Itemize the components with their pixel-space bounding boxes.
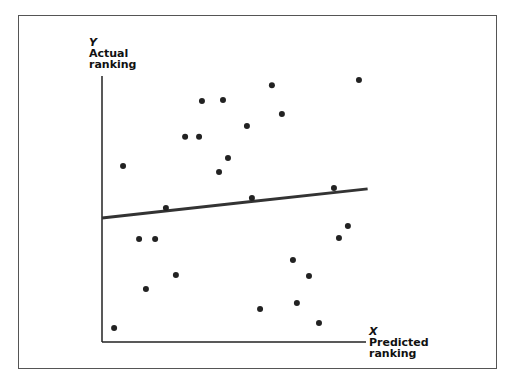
- y-label-line2: ranking: [89, 59, 136, 70]
- data-point: [225, 155, 231, 161]
- data-point: [257, 306, 263, 312]
- data-point: [294, 300, 300, 306]
- trend-line: [102, 189, 368, 218]
- data-point: [143, 286, 149, 292]
- data-point: [163, 205, 169, 211]
- data-point: [316, 320, 322, 326]
- data-point: [111, 325, 117, 331]
- data-point: [356, 77, 362, 83]
- data-point: [279, 111, 285, 117]
- data-point: [249, 195, 255, 201]
- x-axis-label: X Predicted ranking: [369, 326, 429, 359]
- data-point: [182, 134, 188, 140]
- data-point: [199, 98, 205, 104]
- data-point: [331, 185, 337, 191]
- data-point: [120, 163, 126, 169]
- data-point: [290, 257, 296, 263]
- data-point: [336, 235, 342, 241]
- scatter-plot: [0, 0, 513, 384]
- data-point: [269, 82, 275, 88]
- data-point: [244, 123, 250, 129]
- data-point: [306, 273, 312, 279]
- data-point: [196, 134, 202, 140]
- data-point: [345, 223, 351, 229]
- data-point: [152, 236, 158, 242]
- y-axis-label: Y Actual ranking: [89, 37, 136, 70]
- data-point: [216, 169, 222, 175]
- x-label-line2: ranking: [369, 348, 429, 359]
- data-point: [136, 236, 142, 242]
- data-point: [220, 97, 226, 103]
- data-point: [173, 272, 179, 278]
